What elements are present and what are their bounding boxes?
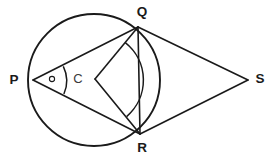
- segment-CR: [95, 79, 140, 134]
- label-S: S: [255, 71, 264, 86]
- label-P: P: [9, 72, 18, 87]
- geometry-canvas: P Q R S C: [0, 0, 276, 160]
- geometry-figure: P Q R S C: [0, 0, 276, 160]
- segment-PQ: [33, 27, 138, 80]
- angle-arc-QCR: [125, 43, 143, 117]
- segment-PR: [33, 80, 140, 134]
- segment-CQ: [95, 27, 138, 79]
- angle-arc-QPR: [63, 66, 66, 94]
- segment-QR: [138, 27, 140, 134]
- segment-RS: [140, 80, 248, 134]
- label-Q: Q: [137, 4, 148, 19]
- label-R: R: [137, 140, 147, 155]
- label-C: C: [73, 71, 82, 86]
- angle-dot-marker-P: [49, 76, 54, 81]
